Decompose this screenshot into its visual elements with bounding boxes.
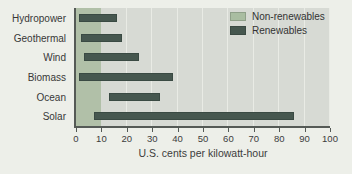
tickmark-100 [330, 128, 331, 132]
legend-swatch-renewables [230, 26, 246, 35]
ticklabel-80: 80 [274, 133, 285, 144]
x-axis-line [74, 126, 330, 128]
category-label-ocean: Ocean [37, 91, 66, 102]
gridline-x-30 [151, 8, 152, 126]
legend-label-non-renewables: Non-renewables [252, 11, 325, 22]
ticklabel-60: 60 [223, 133, 234, 144]
ticklabel-40: 40 [172, 133, 183, 144]
legend-label-renewables: Renewables [252, 25, 307, 36]
legend: Non-renewablesRenewables [230, 11, 325, 39]
bar-wind [84, 53, 140, 61]
bar-ocean [109, 93, 160, 101]
bar-geothermal [81, 34, 122, 42]
non-renewables-range-band [76, 8, 101, 126]
gridline-x-100 [329, 8, 330, 126]
category-label-solar: Solar [43, 111, 66, 122]
ticklabel-70: 70 [249, 133, 260, 144]
tickmark-40 [178, 128, 179, 132]
ticklabel-20: 20 [122, 133, 133, 144]
tickmark-20 [127, 128, 128, 132]
ticklabel-50: 50 [198, 133, 209, 144]
x-axis-title: U.S. cents per kilowatt-hour [76, 147, 330, 159]
ticklabel-90: 90 [299, 133, 310, 144]
y-axis-category-labels: HydropowerGeothermalWindBiomassOceanSola… [0, 8, 70, 126]
ticklabel-0: 0 [73, 133, 78, 144]
bar-hydropower [79, 14, 117, 22]
tickmark-60 [228, 128, 229, 132]
ticklabel-100: 100 [322, 133, 338, 144]
tickmark-80 [279, 128, 280, 132]
gridline-x-40 [177, 8, 178, 126]
tickmark-10 [101, 128, 102, 132]
category-label-biomass: Biomass [28, 71, 66, 82]
tickmark-70 [254, 128, 255, 132]
bar-biomass [79, 73, 173, 81]
ticklabel-30: 30 [147, 133, 158, 144]
y-axis-line [74, 8, 76, 128]
legend-entry-non-renewables: Non-renewables [230, 11, 325, 22]
tickmark-0 [76, 128, 77, 132]
cost-comparison-chart: HydropowerGeothermalWindBiomassOceanSola… [0, 0, 352, 174]
category-label-geothermal: Geothermal [14, 32, 66, 43]
category-label-hydropower: Hydropower [12, 12, 66, 23]
gridline-x-50 [202, 8, 203, 126]
tickmark-90 [305, 128, 306, 132]
tickmark-30 [152, 128, 153, 132]
legend-entry-renewables: Renewables [230, 25, 325, 36]
category-label-wind: Wind [43, 52, 66, 63]
gridline-x-60 [227, 8, 228, 126]
ticklabel-10: 10 [96, 133, 107, 144]
gridline-x-20 [126, 8, 127, 126]
tickmark-50 [203, 128, 204, 132]
legend-swatch-non-renewables [230, 12, 246, 21]
bar-solar [94, 112, 295, 120]
